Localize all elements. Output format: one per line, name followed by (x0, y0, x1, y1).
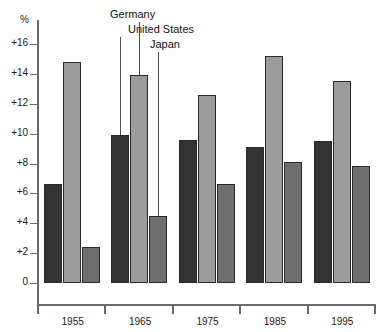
x-tick-mark (172, 306, 174, 314)
bar (314, 141, 332, 283)
y-tick-mark (30, 253, 37, 254)
y-tick-mark (30, 193, 37, 194)
bar (265, 56, 283, 283)
bar (82, 247, 100, 283)
x-tick-mark (104, 306, 106, 314)
x-tick-mark (239, 306, 241, 314)
series-label-germany: Germany (110, 8, 155, 20)
bar (333, 81, 351, 283)
x-tick-mark (37, 306, 39, 314)
y-tick-mark (30, 104, 37, 105)
bar (352, 166, 370, 283)
y-tick-label: +16 (0, 37, 28, 48)
callout-leader-line (158, 52, 159, 216)
y-tick-label: 0 (0, 276, 28, 287)
bar (198, 95, 216, 283)
y-tick-label: +12 (0, 97, 28, 108)
bar (130, 75, 148, 283)
y-tick-label: +6 (0, 186, 28, 197)
y-tick-label: +2 (0, 246, 28, 257)
bar (111, 135, 129, 283)
bar (246, 147, 264, 283)
y-tick-mark (30, 44, 37, 45)
y-tick-mark (30, 223, 37, 224)
y-tick-mark (30, 74, 37, 75)
bar (149, 216, 167, 283)
y-axis-line (37, 20, 39, 305)
series-label-united-states: United States (128, 23, 194, 35)
y-tick-mark (30, 134, 37, 135)
series-label-japan: Japan (150, 38, 180, 50)
bar (63, 62, 81, 283)
callout-leader-line (120, 37, 121, 135)
bar (217, 184, 235, 283)
x-tick-label: 1955 (51, 316, 95, 327)
y-tick-mark (30, 283, 37, 284)
y-axis-unit-label: % (20, 14, 29, 25)
bar-chart: % 0+2+4+6+8+10+12+14+16 1955196519751985… (0, 0, 384, 332)
x-axis-line (37, 304, 376, 306)
bar (179, 140, 197, 283)
x-tick-label: 1965 (118, 316, 162, 327)
x-tick-mark (374, 306, 376, 314)
y-tick-label: +4 (0, 216, 28, 227)
bar (284, 162, 302, 283)
y-tick-label: +8 (0, 157, 28, 168)
x-tick-label: 1995 (320, 316, 364, 327)
y-tick-label: +14 (0, 67, 28, 78)
x-tick-label: 1985 (253, 316, 297, 327)
x-tick-label: 1975 (186, 316, 230, 327)
y-tick-label: +10 (0, 127, 28, 138)
bar (44, 184, 62, 283)
x-tick-mark (307, 306, 309, 314)
y-tick-mark (30, 164, 37, 165)
